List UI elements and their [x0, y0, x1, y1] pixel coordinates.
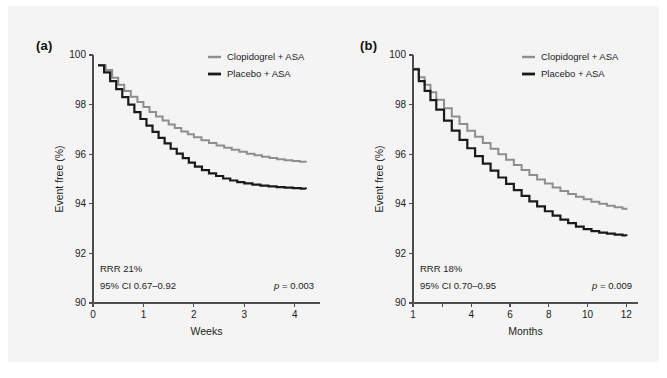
figure-root: (a) 909294969810001234WeeksEvent free (%… [0, 0, 667, 378]
x-tick-label: 8 [546, 309, 552, 320]
x-tick-label: 1 [410, 309, 416, 320]
panel-b-plot: 909294969810014681012MonthsEvent free (%… [338, 6, 659, 362]
y-tick-label: 100 [69, 49, 86, 60]
p-value-number: = 0.003 [279, 280, 314, 291]
ci-text: 95% CI 0.70–0.95 [420, 280, 496, 291]
y-tick-label: 96 [395, 149, 407, 160]
y-tick-label: 98 [75, 99, 87, 110]
curve-placebo [98, 65, 306, 189]
x-tick-label: 10 [582, 309, 594, 320]
legend-label: Clopidogrel + ASA [227, 51, 305, 62]
y-tick-label: 90 [75, 297, 87, 308]
figure-canvas: (a) 909294969810001234WeeksEvent free (%… [8, 6, 659, 362]
ci-text: 95% CI 0.67–0.92 [100, 280, 176, 291]
panel-a: (a) 909294969810001234WeeksEvent free (%… [8, 6, 338, 362]
x-tick-label: 2 [191, 309, 197, 320]
curve-clopidogrel [98, 65, 306, 162]
legend-label: Placebo + ASA [541, 68, 605, 79]
x-axis-title: Months [508, 325, 542, 337]
legend-label: Clopidogrel + ASA [541, 51, 619, 62]
y-tick-label: 100 [389, 49, 406, 60]
p-value-text: p = 0.003 [273, 280, 314, 291]
y-axis-title: Event free (%) [373, 145, 385, 212]
y-tick-label: 92 [395, 248, 407, 259]
x-tick-label: 6 [507, 309, 513, 320]
x-tick-label: 0 [90, 309, 96, 320]
x-tick-label: 4 [292, 309, 298, 320]
y-tick-label: 94 [75, 198, 87, 209]
x-tick-label: 4 [468, 309, 474, 320]
x-axis-title: Weeks [191, 325, 223, 337]
legend-label: Placebo + ASA [227, 68, 291, 79]
y-tick-label: 90 [395, 297, 407, 308]
curve-placebo [413, 69, 626, 236]
p-value-number: = 0.009 [597, 280, 632, 291]
rrr-text: RRR 18% [420, 263, 463, 274]
x-tick-label: 1 [141, 309, 147, 320]
curve-clopidogrel [413, 69, 626, 210]
y-tick-label: 94 [395, 198, 407, 209]
x-tick-label: 3 [242, 309, 248, 320]
y-tick-label: 92 [75, 248, 87, 259]
y-tick-label: 98 [395, 99, 407, 110]
panel-a-plot: 909294969810001234WeeksEvent free (%)Clo… [8, 6, 338, 362]
panel-b: (b) 909294969810014681012MonthsEvent fre… [338, 6, 659, 362]
x-tick-label: 12 [621, 309, 633, 320]
y-axis-title: Event free (%) [53, 145, 65, 212]
y-tick-label: 96 [75, 149, 87, 160]
p-value-text: p = 0.009 [591, 280, 632, 291]
rrr-text: RRR 21% [100, 263, 143, 274]
